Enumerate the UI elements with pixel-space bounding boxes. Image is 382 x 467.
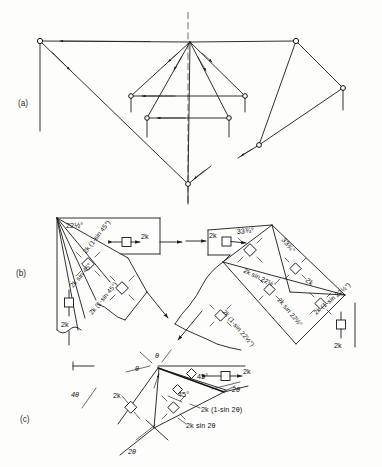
panel-c-theta-top-label: θ xyxy=(155,351,159,360)
panel-b-right-label-e: 2k xyxy=(304,276,316,288)
panel-a-node-fan-right-lower xyxy=(227,116,232,121)
figure-root: (a) 2k 2k xyxy=(0,0,382,467)
panel-b-left-lower-out-arrow xyxy=(147,292,168,318)
panel-c-four-theta-label: 4θ xyxy=(71,390,79,399)
panel-b-left-h-spring-box xyxy=(122,238,131,247)
panel-b-left-angle-label: 22½° xyxy=(66,221,83,230)
panel-c-force-box-right xyxy=(221,372,230,381)
panel-b-right-cross-2 xyxy=(285,258,306,279)
panel-a-right-member-3 xyxy=(259,88,343,145)
panel-b-right-angle-right-label: 33¾° xyxy=(279,236,297,255)
panel-c-expr-one-label: 2k (1-sin 2θ) xyxy=(201,405,242,414)
panel-c-left-spring-lead-bottom xyxy=(134,412,140,419)
panel-c-45-upper-label: 45° xyxy=(197,372,208,381)
panel-b-right-label-d: 2k (1-sin 22½°) xyxy=(220,308,255,348)
panel-a-right-member-1 xyxy=(259,41,296,145)
panel-a-top-right-member xyxy=(190,41,296,42)
panel-a-node-right-mid xyxy=(341,86,346,91)
panel-c-two-theta-right-label: 2θ xyxy=(231,385,240,394)
panel-a-node-fan-left-lower xyxy=(145,116,150,121)
panel-b-label: (b) xyxy=(16,269,26,278)
panel-a-node-bottom-vertex xyxy=(186,182,191,187)
panel-b-right-label-b: 2k sin 22½° xyxy=(276,296,304,328)
panel-b-left-lower-edge-r xyxy=(128,258,147,292)
panel-c-left-descend xyxy=(118,368,158,424)
technical-figure-svg: (a) 2k 2k xyxy=(0,0,382,467)
panel-b-right-bot-box xyxy=(337,320,346,329)
panel-a-fan-ray-3 xyxy=(190,42,229,118)
panel-a-left-diagonal-arrow xyxy=(52,52,70,70)
panel-a-bottom-ray-arrow xyxy=(194,170,205,179)
panel-b-right-force-bottom-label: 2k xyxy=(334,341,342,350)
panel-b-right-skirt-bottom xyxy=(175,324,241,350)
panel-c-theta-guide-1 xyxy=(140,352,152,363)
panel-c-left-spring-lead-top xyxy=(122,396,128,403)
panel-c-theta-left-label: θ xyxy=(135,364,139,373)
panel-a-fan-arrow-3 xyxy=(198,57,206,71)
panel-a-node-right-lower xyxy=(257,143,262,148)
panel-b-left-lower-edge-b xyxy=(125,292,147,320)
panel-a-node-fan-left-upper xyxy=(129,94,134,99)
panel-b-left-group: 2k 2k xyxy=(16,218,182,345)
panel-b-right-angle-left-label: 33¾° xyxy=(236,226,254,236)
panel-c-expr-two-label: 2k sin 2θ xyxy=(186,421,216,430)
panel-c-theta-guide-2 xyxy=(162,350,171,362)
panel-c-mid-cross-symbol xyxy=(162,396,185,419)
panel-a-fan-arrow-2 xyxy=(174,56,182,70)
panel-b-left-ray-5 xyxy=(57,218,78,330)
panel-b-left-diag-mid-label: 2k sin 45° xyxy=(68,261,93,288)
panel-b-left-diag-upper-label: 2k (1-sin 45°) xyxy=(81,219,112,256)
panel-c-four-theta-tick xyxy=(82,388,96,408)
panel-a-fan-arrow-4 xyxy=(202,53,212,62)
panel-c-two-theta-bottom-label: 2θ xyxy=(127,447,136,456)
panel-c-label: (c) xyxy=(20,415,30,424)
panel-a-bottom-right-ray xyxy=(188,166,211,184)
panel-c-45-upper-marker xyxy=(187,369,197,379)
panel-a-right-member-2 xyxy=(296,41,343,88)
panel-b-right-label-a: 2k sin 22½° xyxy=(243,267,278,289)
panel-c-group: θ θ 4θ 45° 2k 2θ 45° 2k 2k (1-sin 2θ) 2k… xyxy=(20,350,251,456)
panel-a-fan-ray-2 xyxy=(147,42,190,118)
panel-c-force-left-label: 2k xyxy=(113,391,121,400)
panel-b-left-spring-box xyxy=(65,298,74,307)
panel-a-right-tail-arrow xyxy=(241,149,252,156)
panel-b-right-force-left-lead xyxy=(231,242,246,244)
panel-b-right-force-left-box xyxy=(222,237,231,246)
panel-a-label: (a) xyxy=(18,99,28,108)
panel-c-force-right-label: 2k xyxy=(243,367,251,376)
panel-b-left-force-top-label: 2k xyxy=(141,232,149,241)
panel-b-left-force-bottom-label: 2k xyxy=(61,320,69,329)
panel-b-right-label-c: 2k (1-sin 22½°) xyxy=(312,281,352,316)
panel-b-left-diag-lower-label: 2k (1-sin 45°) xyxy=(87,280,119,316)
panel-a-fan-ray-1 xyxy=(131,42,190,96)
panel-c-bottom-ray-1 xyxy=(120,428,154,455)
panel-a-group: (a) xyxy=(18,12,345,205)
panel-c-45-lower-label: 45° xyxy=(178,390,189,399)
panel-a-fan-ray-4 xyxy=(190,42,245,96)
panel-a-node-left-top xyxy=(37,38,42,43)
panel-b-right-force-left-label: 2k xyxy=(209,231,217,240)
panel-a-node-right-top xyxy=(293,38,298,43)
panel-c-bottom-ray-3 xyxy=(136,425,155,440)
panel-b-right-diag-3 xyxy=(223,262,345,295)
panel-b-left-lower-edge-wavy xyxy=(97,304,125,320)
panel-b-right-group: 2k 2k xyxy=(175,225,355,350)
panel-a-fan-arrow-1 xyxy=(168,53,178,62)
panel-a-node-fan-right-upper xyxy=(243,94,248,99)
